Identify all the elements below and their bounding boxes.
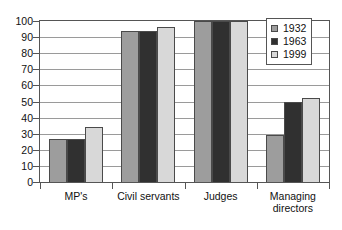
y-axis-tick-label: 60 [21, 80, 33, 91]
bar-slot [85, 21, 103, 182]
bar-slot [139, 21, 157, 182]
bar[interactable] [284, 102, 302, 183]
x-axis-category-label-line: Civil servants [112, 190, 184, 202]
x-axis-divider [40, 183, 41, 189]
bar[interactable] [266, 135, 284, 182]
x-axis-category-label-line: directors [257, 202, 329, 214]
bar-group [40, 21, 112, 182]
bar-slot [230, 21, 248, 182]
bar-slot [49, 21, 67, 182]
bar[interactable] [230, 21, 248, 182]
legend-swatch-icon [271, 38, 278, 45]
x-axis-category-label: Managingdirectors [257, 190, 329, 214]
x-axis-category-label-line: Managing [257, 190, 329, 202]
y-axis-tick-label: 100 [15, 16, 33, 27]
legend-label: 1932 [283, 23, 306, 34]
legend-item[interactable]: 1999 [271, 48, 306, 61]
bar[interactable] [302, 98, 320, 182]
y-axis: 0102030405060708090100 [0, 20, 33, 183]
bar[interactable] [49, 139, 67, 182]
x-axis-category-label: Civil servants [112, 190, 184, 214]
bar-slot [212, 21, 230, 182]
legend-swatch-icon [271, 51, 278, 58]
bar[interactable] [67, 139, 85, 182]
x-axis-divider [257, 183, 258, 189]
bar[interactable] [157, 27, 175, 182]
bar-group [185, 21, 257, 182]
y-axis-tick-label: 80 [21, 48, 33, 59]
bar-slot [121, 21, 139, 182]
y-axis-tick-label: 20 [21, 145, 33, 156]
bar[interactable] [212, 21, 230, 182]
bar-group [112, 21, 184, 182]
legend-item[interactable]: 1963 [271, 35, 306, 48]
bar[interactable] [139, 31, 157, 182]
x-axis-divider [185, 183, 186, 189]
x-axis-category-label-line: MP's [40, 190, 112, 202]
legend-label: 1963 [283, 36, 306, 47]
bar[interactable] [121, 31, 139, 182]
x-axis-category-label: MP's [40, 190, 112, 214]
legend: 193219631999 [266, 18, 312, 65]
y-axis-tick-label: 70 [21, 64, 33, 75]
legend-label: 1999 [283, 49, 306, 60]
legend-swatch-icon [271, 25, 278, 32]
bar-slot [67, 21, 85, 182]
x-axis-category-label: Judges [185, 190, 257, 214]
x-axis-divider [112, 183, 113, 189]
y-axis-tick-label: 50 [21, 96, 33, 107]
bar[interactable] [85, 127, 103, 182]
bar-slot [157, 21, 175, 182]
bar[interactable] [194, 21, 212, 182]
x-axis-labels: MP'sCivil servantsJudgesManagingdirector… [40, 190, 329, 214]
bar-slot [194, 21, 212, 182]
x-axis-divider [329, 183, 330, 189]
y-axis-tick-label: 30 [21, 128, 33, 139]
legend-item[interactable]: 1932 [271, 22, 306, 35]
bar-chart: 0102030405060708090100 MP'sCivil servant… [0, 0, 342, 230]
y-axis-tick-label: 10 [21, 161, 33, 172]
x-axis-category-label-line: Judges [185, 190, 257, 202]
y-axis-tick-label: 90 [21, 32, 33, 43]
y-axis-tick-label: 40 [21, 112, 33, 123]
